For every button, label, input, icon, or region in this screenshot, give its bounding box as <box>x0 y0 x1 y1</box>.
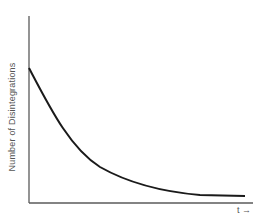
decay-chart <box>0 0 271 224</box>
x-axis-label: t → <box>237 205 251 215</box>
y-axis-label: Number of Disintegrations <box>7 62 17 171</box>
decay-curve <box>29 68 245 196</box>
